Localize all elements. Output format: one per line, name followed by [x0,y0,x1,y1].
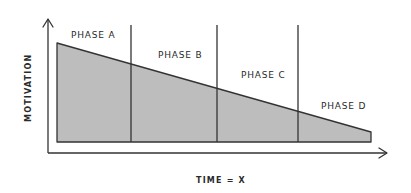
x-axis [48,148,387,158]
y-axis [43,19,53,153]
motivation-over-time-chart: PHASE A PHASE B PHASE C PHASE D MOTIVATI… [0,0,411,193]
phase-c-label: PHASE C [241,70,286,80]
x-axis-title: TIME = X [196,176,246,185]
y-axis-title: MOTIVATION [24,54,33,122]
motivation-area [57,43,371,142]
phase-a-label: PHASE A [71,30,115,40]
phase-d-label: PHASE D [321,101,366,111]
phase-b-label: PHASE B [158,50,202,60]
